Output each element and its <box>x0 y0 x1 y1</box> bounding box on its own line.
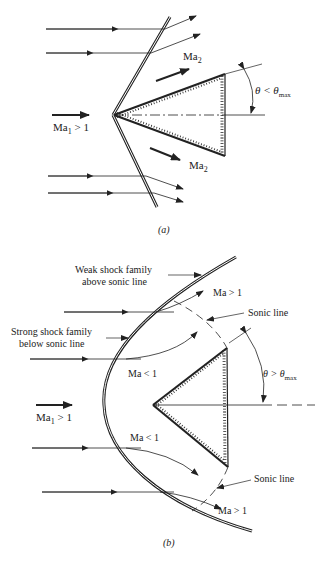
sonic-line-upper-leader <box>207 313 244 320</box>
freestream-label-b: Ma1 > 1 <box>36 411 72 426</box>
angle-label-b: θ > θmax <box>263 368 297 382</box>
angle-extension-a <box>225 64 262 74</box>
caption-a: (a) <box>158 224 170 236</box>
oblique-shock-diagram: Ma1 > 1 Ma2 Ma2 θ < θmax (a) <box>0 0 329 564</box>
panel-b: Weak shock family above sonic line Stron… <box>11 257 315 549</box>
strong-shock-label-2: below sonic line <box>19 338 85 349</box>
sonic-line-label-upper: Sonic line <box>248 307 289 318</box>
angle-arc-a <box>244 69 253 113</box>
lower-streamlines <box>48 176 183 202</box>
sonic-line-lower-leader <box>217 480 251 488</box>
weak-shock-label-2: above sonic line <box>82 276 148 287</box>
freestream-label-a: Ma1 > 1 <box>53 121 89 136</box>
downstream-arrow-upper-a <box>156 69 189 81</box>
angle-arc-b <box>246 333 264 402</box>
ma-lt1-label-upper: Ma < 1 <box>128 368 157 379</box>
strong-shock-label-1: Strong shock family <box>11 326 92 337</box>
angle-label-a: θ < θmax <box>255 84 291 99</box>
downstream-arrow-lower-a <box>150 148 180 160</box>
sonic-line-upper-curve <box>174 301 227 348</box>
caption-b: (b) <box>163 537 175 549</box>
sonic-line-label-lower: Sonic line <box>254 473 295 484</box>
ma-lt1-label-lower: Ma < 1 <box>130 432 159 443</box>
weak-shock-label-1: Weak shock family <box>75 264 152 275</box>
wedge-b <box>153 348 228 467</box>
ma-gt1-label-upper: Ma > 1 <box>213 287 242 298</box>
ma-gt1-label-lower: Ma > 1 <box>218 505 247 516</box>
upper-streamlines <box>46 16 200 53</box>
ma2-label-lower: Ma2 <box>189 159 208 174</box>
panel-a: Ma1 > 1 Ma2 Ma2 θ < θmax (a) <box>46 16 291 236</box>
ma2-label-upper: Ma2 <box>183 50 202 65</box>
